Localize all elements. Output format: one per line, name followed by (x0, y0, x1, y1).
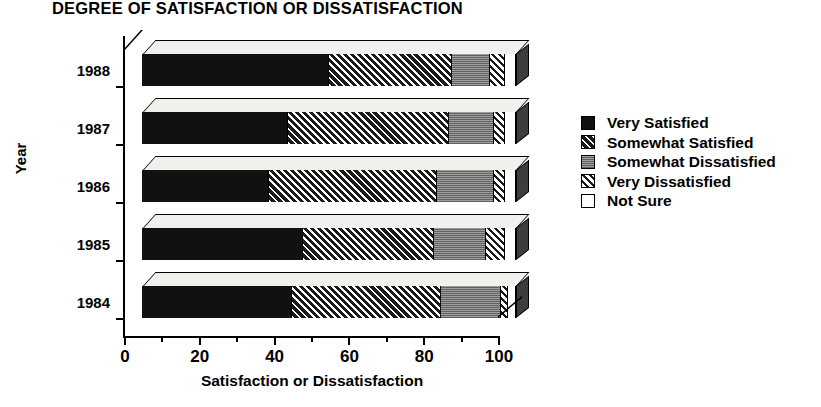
y-tick-label-1987: 1987 (52, 120, 110, 137)
bar-segment-somewhat-satisfied (329, 54, 452, 86)
bar-segment-very-dissatisfied (486, 228, 505, 260)
bar-front-face (142, 112, 516, 144)
bar-segment-not-sure (505, 170, 516, 202)
bar-top-face (142, 156, 530, 171)
x-tick-80 (423, 336, 425, 345)
legend-item-very-dissatisfied[interactable]: Very Dissatisfied (581, 172, 776, 192)
bar-row (142, 156, 516, 202)
legend-item-somewhat-dissatisfied[interactable]: Somewhat Dissatisfied (581, 152, 776, 172)
bar-segment-somewhat-satisfied (269, 170, 437, 202)
y-axis-line (123, 36, 125, 338)
bar-segment-somewhat-dissatisfied (449, 112, 494, 144)
x-tick-label: 100 (485, 347, 513, 367)
bar-segment-very-dissatisfied (494, 170, 505, 202)
y-tick (116, 202, 124, 204)
legend-item-not-sure[interactable]: Not Sure (581, 191, 776, 211)
bar-top-face (142, 40, 530, 55)
bar-row (142, 214, 516, 260)
legend-label: Very Satisfied (607, 115, 709, 131)
bar-segment-very-satisfied (142, 228, 303, 260)
bar-segment-not-sure (505, 228, 516, 260)
x-tick-20 (199, 336, 201, 345)
bar-front-face (142, 228, 516, 260)
bar-segment-not-sure (505, 112, 516, 144)
bar-top-face (142, 214, 530, 229)
bar-top-face (142, 272, 530, 287)
legend-item-very-satisfied[interactable]: Very Satisfied (581, 113, 776, 133)
legend-label: Not Sure (607, 193, 672, 209)
bar-segment-very-dissatisfied (494, 112, 505, 144)
bar-front-face (142, 54, 516, 86)
y-tick-label-1985: 1985 (52, 236, 110, 253)
bar-top-face (142, 98, 530, 113)
bar-segment-very-dissatisfied (490, 54, 505, 86)
y-tick-label-1988: 1988 (52, 62, 110, 79)
bar-segment-somewhat-dissatisfied (434, 228, 486, 260)
chart-legend: Very SatisfiedSomewhat SatisfiedSomewhat… (581, 113, 776, 211)
x-tick-label: 20 (190, 347, 209, 367)
x-tick-70 (386, 336, 388, 342)
bar-row (142, 98, 516, 144)
bar-row (142, 40, 516, 86)
y-tick (116, 260, 124, 262)
legend-label: Somewhat Dissatisfied (607, 154, 776, 170)
chart-figure: DEGREE OF SATISFACTION OR DISSATISFACTIO… (0, 0, 821, 407)
x-tick-0 (124, 336, 126, 345)
bar-front-face (142, 170, 516, 202)
x-tick-90 (461, 336, 463, 342)
x-tick-40 (274, 336, 276, 345)
bar-segment-very-satisfied (142, 170, 269, 202)
x-tick-30 (236, 336, 238, 342)
bar-row (142, 272, 516, 318)
legend-label: Somewhat Satisfied (607, 135, 753, 151)
y-tick (116, 144, 124, 146)
y-tick (116, 86, 124, 88)
bar-segment-very-satisfied (142, 112, 288, 144)
bar-segment-very-satisfied (142, 54, 329, 86)
bar-segment-not-sure (505, 54, 516, 86)
x-tick-label: 0 (120, 347, 129, 367)
x-tick-60 (348, 336, 350, 345)
legend-swatch-icon (581, 116, 595, 130)
legend-swatch-icon (581, 155, 595, 169)
y-tick-label-1984: 1984 (52, 294, 110, 311)
legend-swatch-icon (581, 174, 595, 188)
y-tick-label-1986: 1986 (52, 178, 110, 195)
bar-segment-very-satisfied (142, 286, 292, 318)
y-axis-depth-line (123, 30, 143, 50)
legend-item-somewhat-satisfied[interactable]: Somewhat Satisfied (581, 133, 776, 153)
legend-label: Very Dissatisfied (607, 174, 731, 190)
x-tick-10 (161, 336, 163, 342)
bar-front-face (142, 286, 516, 318)
x-tick-label: 80 (415, 347, 434, 367)
x-tick-label: 60 (340, 347, 359, 367)
bar-segment-somewhat-dissatisfied (441, 286, 501, 318)
x-axis-label: Satisfaction or Dissatisfaction (124, 372, 500, 390)
x-tick-100 (498, 336, 500, 345)
bar-segment-somewhat-dissatisfied (437, 170, 493, 202)
x-tick-50 (311, 336, 313, 342)
x-tick-label: 40 (265, 347, 284, 367)
bar-segment-somewhat-satisfied (303, 228, 434, 260)
bar-segment-somewhat-satisfied (292, 286, 442, 318)
y-tick (116, 318, 124, 320)
bar-segment-somewhat-dissatisfied (452, 54, 489, 86)
plot-area: 020406080100 19881987198619851984 Satisf… (0, 0, 560, 360)
legend-swatch-icon (581, 135, 595, 149)
y-axis-label: Year (12, 124, 29, 194)
bar-segment-somewhat-satisfied (288, 112, 449, 144)
legend-swatch-icon (581, 194, 595, 208)
